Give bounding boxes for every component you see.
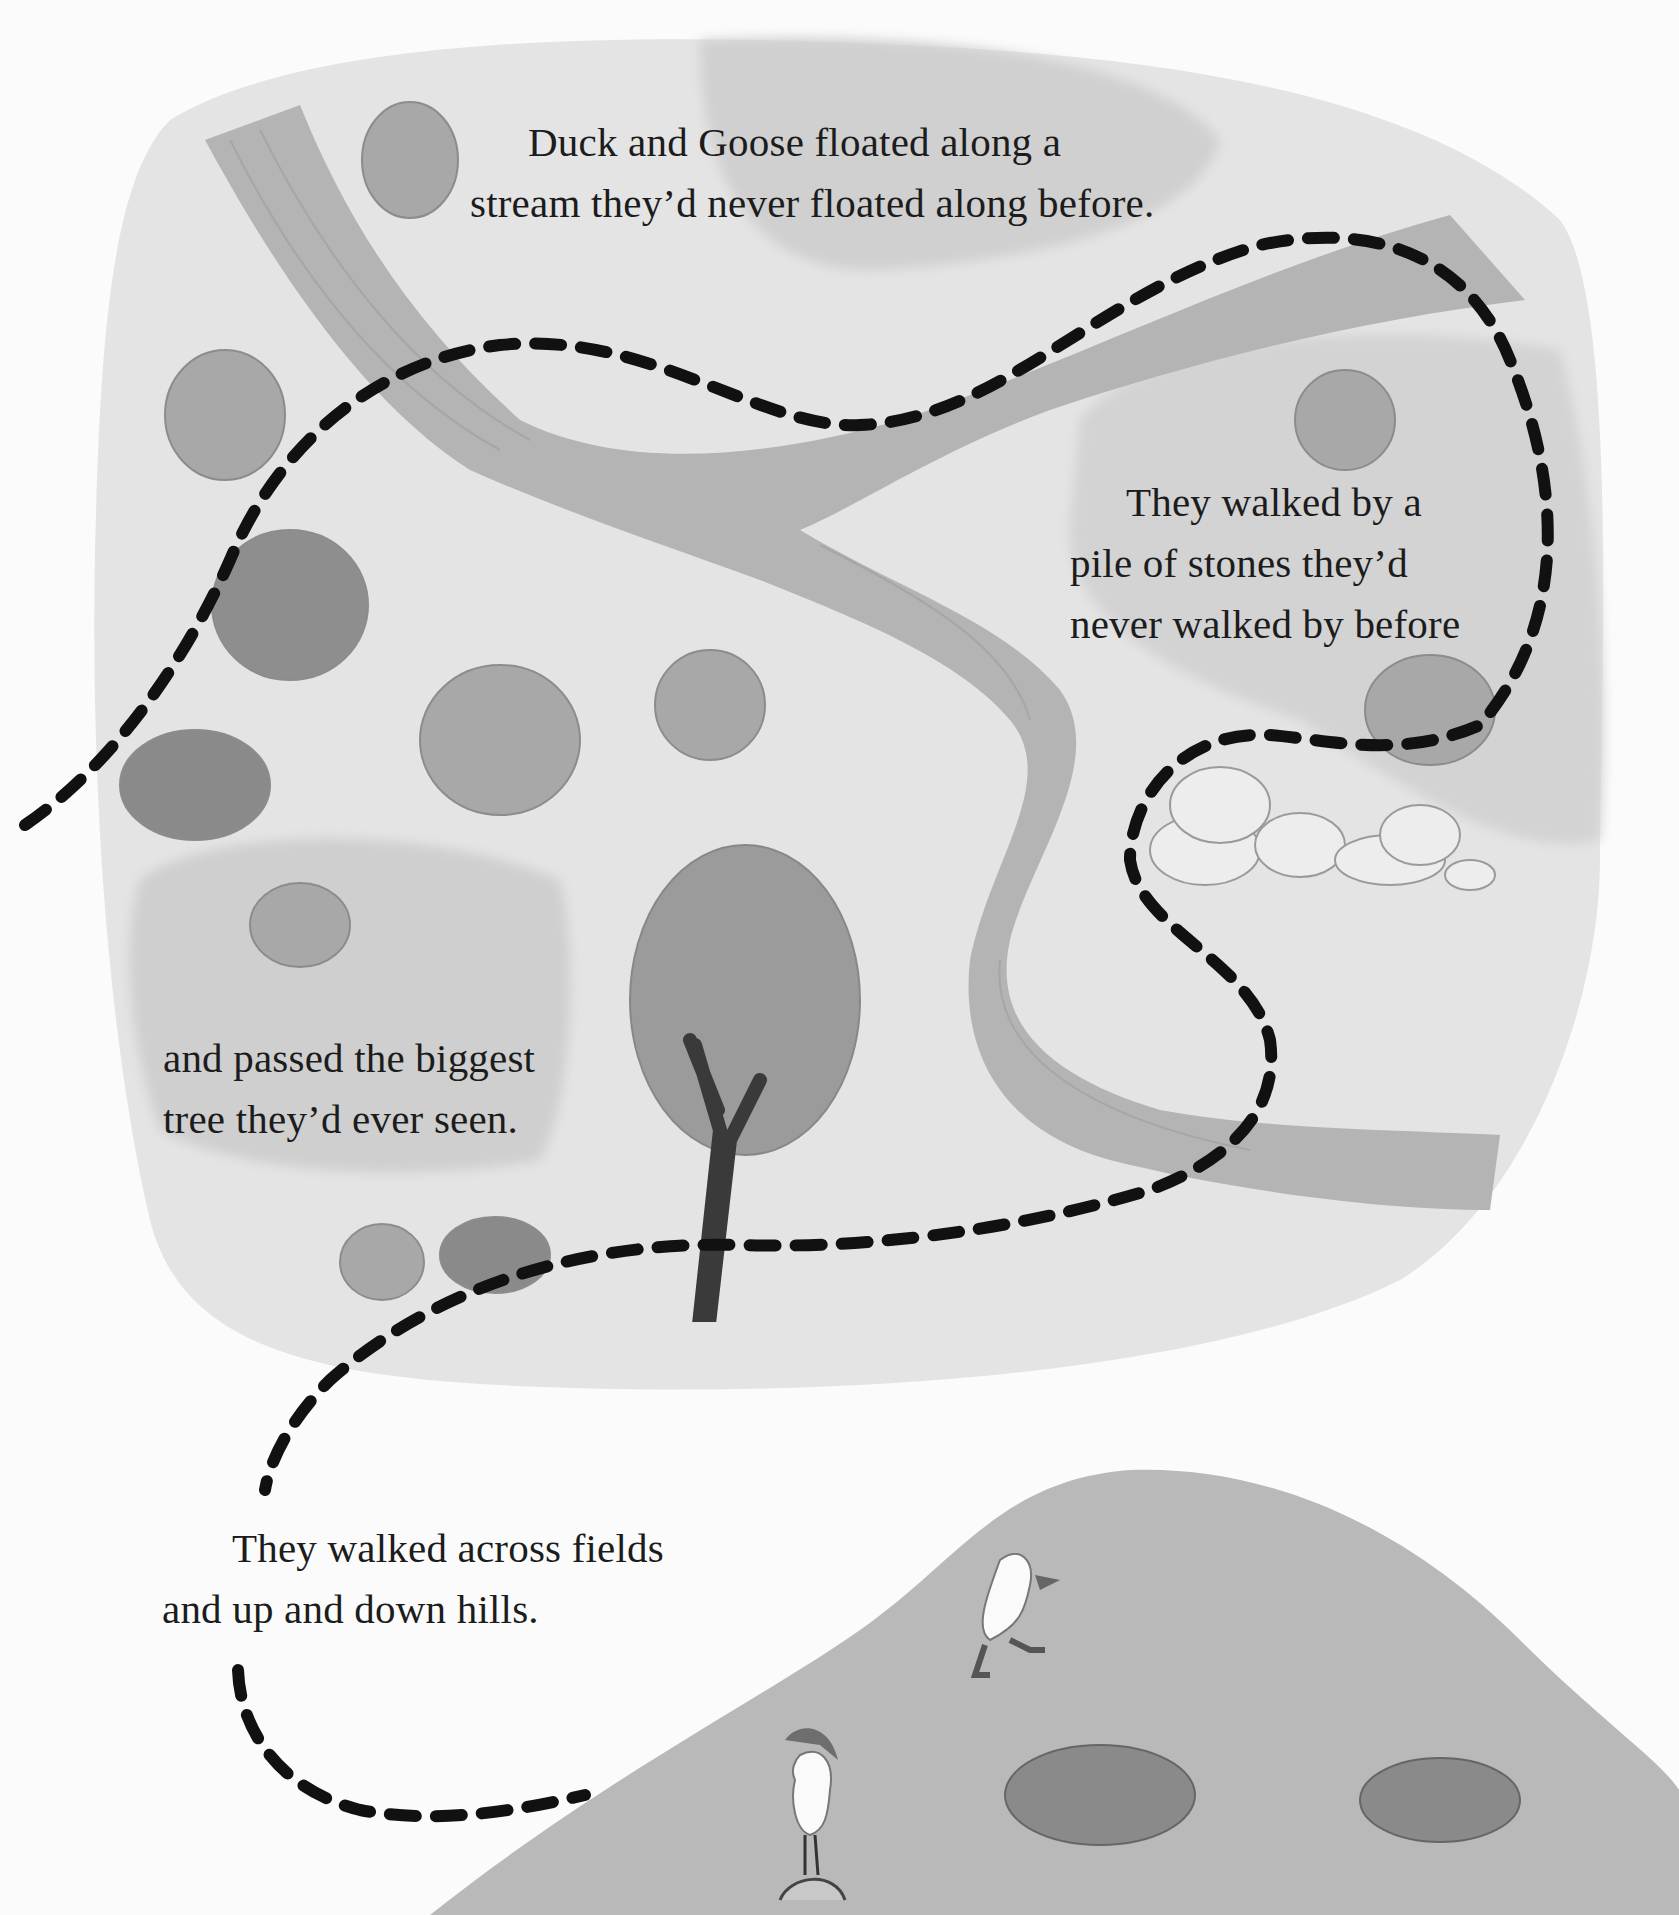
caption-stones: They walked by a pile of stones they’d n… (1070, 472, 1460, 655)
caption-hills-line-1: They walked across fields (162, 1518, 664, 1579)
caption-stones-line-3: never walked by before (1070, 594, 1460, 655)
caption-stream: Duck and Goose floated along a stream th… (470, 112, 1154, 234)
dashed-route-bottom (238, 1670, 585, 1816)
caption-tree: and passed the biggest tree they’d ever … (163, 1028, 535, 1150)
picture-book-page: Duck and Goose floated along a stream th… (0, 0, 1679, 1915)
caption-hills-line-2: and up and down hills. (162, 1579, 664, 1640)
caption-tree-line-1: and passed the biggest (163, 1028, 535, 1089)
caption-tree-line-2: tree they’d ever seen. (163, 1089, 535, 1150)
caption-stones-line-2: pile of stones they’d (1070, 533, 1460, 594)
caption-hills: They walked across fields and up and dow… (162, 1518, 664, 1640)
caption-stream-line-2: stream they’d never floated along before… (470, 173, 1154, 234)
caption-stream-line-1: Duck and Goose floated along a (470, 112, 1154, 173)
caption-stones-line-1: They walked by a (1070, 472, 1460, 533)
